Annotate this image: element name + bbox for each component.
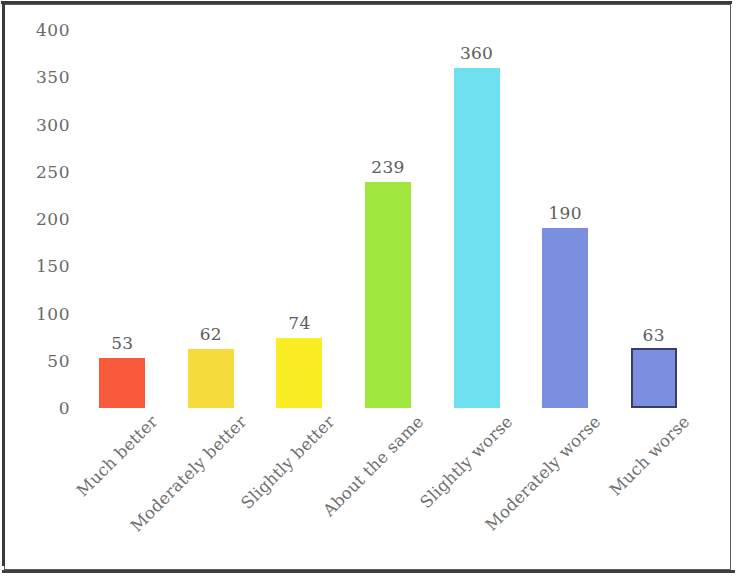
x-tick-label: Much worse (606, 412, 694, 500)
bar: 62 (188, 349, 234, 408)
bar: 53 (99, 358, 145, 408)
plot-area: 53627423936019063 (78, 30, 698, 408)
y-axis-tick-labels: 400350300250200150100500 (8, 30, 70, 408)
bar-value-label: 63 (643, 325, 665, 345)
bar: 190 (542, 228, 588, 408)
bar-value-label: 53 (111, 333, 133, 353)
y-tick-label: 150 (10, 256, 70, 276)
x-tick-label: Slightly worse (416, 412, 516, 512)
y-tick-label: 300 (10, 115, 70, 135)
y-tick-label: 100 (10, 304, 70, 324)
bar: 239 (365, 182, 411, 408)
y-tick-label: 350 (10, 67, 70, 87)
y-tick-label: 50 (10, 351, 70, 371)
y-tick-label: 400 (10, 20, 70, 40)
y-tick-label: 250 (10, 162, 70, 182)
x-axis-category-labels: Much betterModerately betterSlightly bet… (78, 412, 698, 572)
bar-value-label: 360 (460, 43, 493, 63)
bar: 74 (276, 338, 322, 408)
bar-value-label: 239 (371, 157, 404, 177)
bar-value-label: 62 (200, 324, 222, 344)
bar-value-label: 190 (548, 203, 581, 223)
x-tick-label: Slightly better (238, 412, 339, 513)
bar-value-label: 74 (288, 313, 310, 333)
y-tick-label: 200 (10, 209, 70, 229)
y-tick-label: 0 (10, 398, 70, 418)
x-tick-label: Much better (73, 412, 161, 500)
bar-chart-figure: 400350300250200150100500 536274239360190… (0, 0, 739, 587)
bar: 360 (454, 68, 500, 408)
bar: 63 (631, 348, 677, 408)
